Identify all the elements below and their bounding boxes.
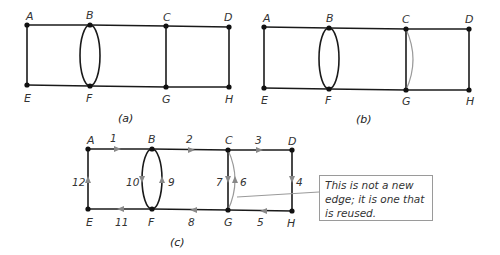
vertex-label: B	[86, 9, 94, 22]
caption-b: (b)	[356, 113, 372, 126]
vertex-label: G	[162, 93, 171, 106]
edge-number: 11	[115, 216, 128, 228]
vertex-label: D	[288, 135, 296, 148]
callout-note: This is not a new edge; it is one that i…	[319, 175, 433, 221]
callout-leader	[237, 192, 319, 197]
vertex-label: G	[224, 216, 233, 229]
diagram-b: A B C D E F G H (b)	[261, 12, 474, 126]
edge-number: 9	[168, 176, 175, 188]
diagram-c: A B C D E F G H 1 2 3 4 5 6 7 8 9 10 11 …	[72, 132, 319, 249]
vertex-label: H	[225, 93, 233, 106]
vertex-label: D	[224, 11, 232, 24]
vertex-label: A	[86, 134, 95, 147]
vertex-label: C	[163, 11, 171, 24]
edge-number: 1	[110, 132, 117, 144]
edge-number: 3	[255, 134, 262, 146]
duplicated-edge-cg	[406, 29, 413, 90]
vertex-label: A	[25, 10, 34, 23]
diagram-a: A B C D E F G H (a)	[24, 9, 233, 125]
vertices-a	[24, 22, 231, 89]
vertices-b	[261, 24, 471, 92]
vertex-label: A	[262, 12, 271, 25]
edge-number: 2	[186, 133, 193, 145]
vertex-label: E	[86, 216, 93, 229]
caption-c: (c)	[170, 236, 185, 249]
vertex-label: F	[325, 94, 332, 107]
edge-number: 7	[216, 176, 223, 188]
vertex-label: H	[466, 95, 474, 108]
vertex-label: B	[148, 133, 156, 146]
direction-arrows	[85, 146, 295, 214]
vertex-label: E	[261, 94, 268, 107]
vertex-label: D	[465, 13, 473, 26]
vertex-label: F	[86, 92, 93, 105]
vertex-label: F	[148, 216, 155, 229]
edge-number: 10	[126, 176, 140, 188]
caption-a: (a)	[118, 112, 133, 125]
vertex-label: G	[402, 95, 411, 108]
vertices-c	[85, 146, 294, 213]
vertex-label: H	[287, 217, 295, 230]
edge-number: 6	[240, 176, 247, 188]
vertex-label: E	[24, 92, 31, 105]
edge-number: 12	[72, 176, 86, 188]
edge-number: 8	[188, 216, 195, 228]
vertex-label: C	[225, 134, 233, 147]
vertex-label: C	[402, 13, 410, 26]
edge-number: 5	[257, 216, 264, 228]
edge-number: 4	[296, 176, 303, 188]
vertex-label: B	[326, 12, 334, 25]
